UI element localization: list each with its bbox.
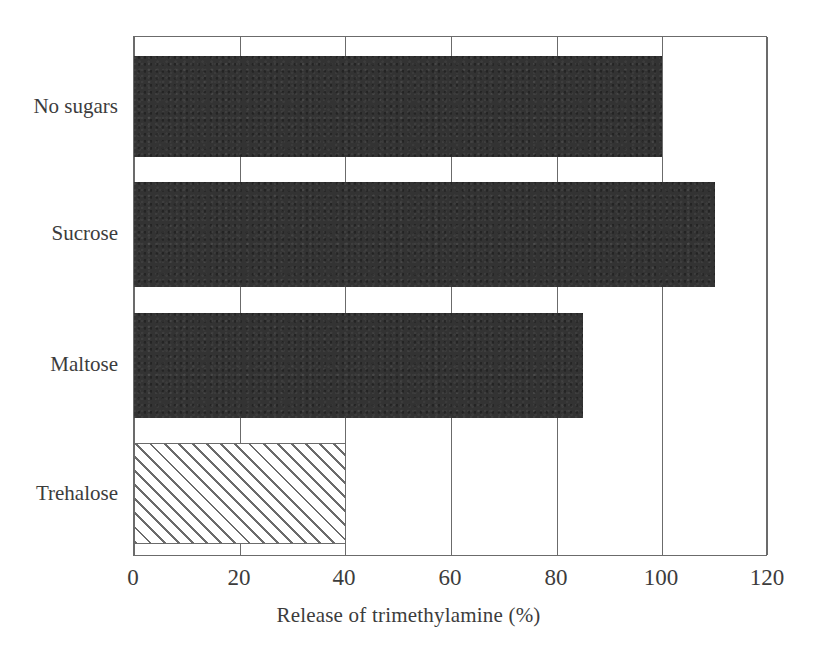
category-label-maltose: Maltose [0,352,118,377]
xtick-label-40: 40 [314,565,374,591]
category-label-no-sugars: No sugars [0,94,118,119]
bars-layer [134,37,766,555]
xtick-label-80: 80 [526,565,586,591]
xtick-label-0: 0 [103,565,163,591]
category-label-sucrose: Sucrose [0,221,118,246]
xtick-label-120: 120 [737,565,797,591]
plot-area [133,36,767,556]
bar-chart: No sugars Sucrose Maltose Trehalose 0 20 [0,0,817,661]
xtick-label-60: 60 [420,565,480,591]
bar-maltose [134,313,583,418]
bar-no-sugars [134,56,662,157]
xtick-label-20: 20 [209,565,269,591]
bar-sucrose [134,182,715,287]
xtick-label-100: 100 [631,565,691,591]
category-label-trehalose: Trehalose [0,481,118,506]
bar-trehalose [134,443,346,544]
x-axis-title: Release of trimethylamine (%) [0,603,817,628]
gridline-120 [767,37,768,555]
